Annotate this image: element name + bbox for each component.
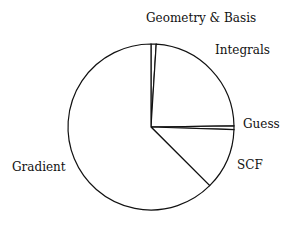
label-gradient: Gradient [12,160,66,174]
label-geometry-basis: Geometry & Basis [146,11,256,25]
label-integrals: Integrals [215,43,270,57]
label-guess: Guess [243,117,280,131]
pie-chart: Geometry & Basis Integrals Guess SCF Gra… [0,0,290,227]
label-scf: SCF [237,158,263,172]
pie-slices [68,44,234,210]
